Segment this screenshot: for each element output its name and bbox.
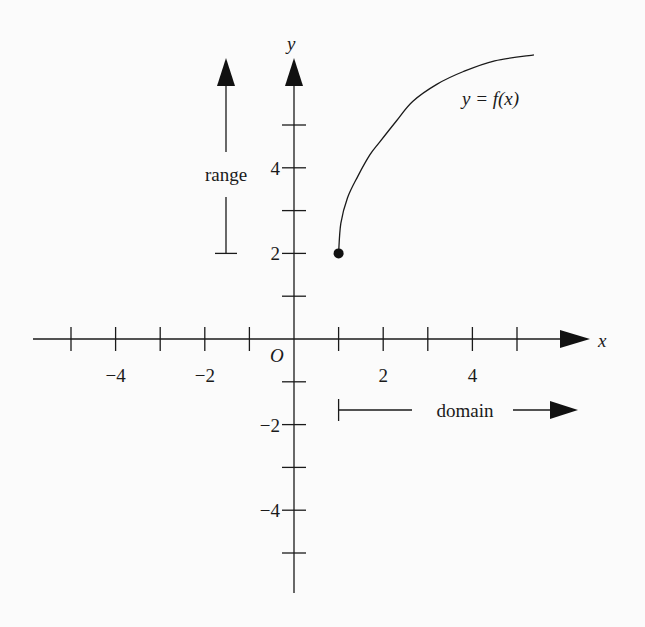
domain-label: domain — [437, 400, 494, 421]
x-tick-label: −4 — [105, 365, 126, 386]
y-tick-label: 4 — [271, 158, 281, 179]
range-arrow — [217, 58, 235, 86]
range-label: range — [205, 164, 247, 185]
y-axis-arrow — [285, 58, 303, 86]
start-point-dot — [334, 248, 344, 258]
axes: xyO — [33, 33, 607, 593]
function-curve — [339, 55, 534, 254]
curve-label: y = f(x) — [460, 88, 519, 110]
annotations: rangedomain — [205, 58, 578, 421]
y-tick-label: −4 — [260, 500, 281, 521]
function-domain-range-chart: xyO −4−22442−2−4 y = f(x) rangedomain — [0, 0, 645, 627]
y-axis-label: y — [285, 33, 296, 54]
curve-group: y = f(x) — [334, 55, 534, 259]
origin-label: O — [270, 345, 284, 366]
y-tick-label: 2 — [271, 243, 281, 264]
x-axis-arrow — [560, 330, 590, 348]
x-tick-label: 2 — [378, 365, 388, 386]
x-axis-label: x — [597, 330, 607, 351]
x-tick-label: −2 — [195, 365, 215, 386]
x-tick-label: 4 — [468, 365, 478, 386]
domain-arrow — [550, 401, 578, 419]
y-tick-label: −2 — [260, 415, 280, 436]
